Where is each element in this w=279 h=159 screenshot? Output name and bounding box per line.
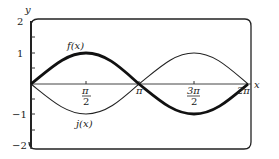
y-tick-label-1: 1 [17,48,23,59]
sine-chart: y x 2 1 −1 −2 f(x) j(x) π 2 π 3π 2 2π [0,0,279,159]
x-tick-pi-half-den: 2 [83,96,89,107]
x-tick-3pi-half-num: 3π [187,85,200,96]
y-axis-label: y [24,4,31,15]
j-label: j(x) [74,118,93,129]
f-label: f(x) [66,40,84,51]
y-tick-label-m2: −2 [12,140,27,151]
x-tick-2pi: 2π [236,85,250,96]
x-axis-label: x [254,79,260,90]
x-tick-pi-half-num: π [81,85,89,96]
y-tick-label-m1: −1 [12,109,27,120]
x-tick-3pi-half-den: 2 [191,96,197,107]
y-tick-label-2: 2 [17,16,23,27]
x-tick-pi: π [135,85,143,96]
